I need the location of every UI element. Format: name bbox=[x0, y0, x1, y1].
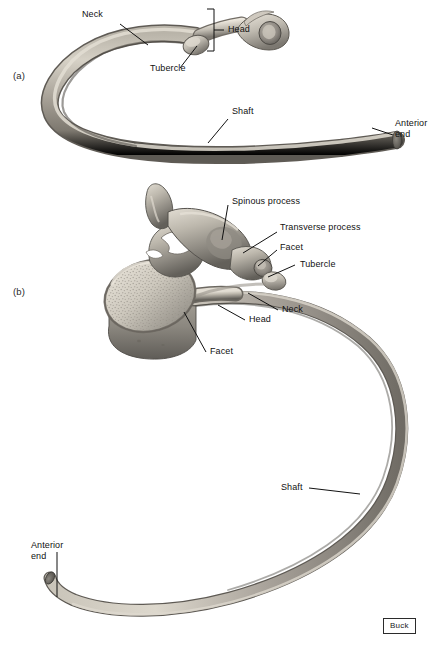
label-neck-a: Neck bbox=[82, 9, 103, 20]
label-head-a: Head bbox=[228, 24, 250, 35]
panel-label-a: (a) bbox=[13, 70, 25, 81]
label-head-b: Head bbox=[249, 314, 271, 325]
label-tubercle-b: Tubercle bbox=[300, 259, 335, 270]
label-spinous-process-b: Spinous process bbox=[232, 196, 300, 207]
leader-head-b bbox=[218, 305, 245, 320]
label-neck-b: Neck bbox=[282, 304, 303, 315]
label-anterior-end-b-line2: end bbox=[31, 551, 46, 561]
panel-label-b: (b) bbox=[13, 286, 25, 297]
label-shaft-a: Shaft bbox=[232, 106, 254, 117]
rib-anatomy-figure: (a) (b) Neck Head Tubercle Shaft Anterio… bbox=[0, 0, 437, 652]
label-anterior-end-b-line1: Anterior bbox=[31, 540, 63, 550]
label-facet-lower-b: Facet bbox=[210, 346, 233, 357]
label-anterior-end-a-line1: Anterior bbox=[395, 118, 427, 128]
panel-b-illustration bbox=[43, 184, 406, 614]
label-transverse-process-b: Transverse process bbox=[280, 222, 361, 233]
leader-shaft-a bbox=[208, 119, 228, 143]
panel-a-rib-illustration bbox=[50, 11, 402, 155]
label-facet-upper-b: Facet bbox=[280, 242, 303, 253]
label-tubercle-a: Tubercle bbox=[150, 63, 185, 74]
credit-box: Buck bbox=[383, 618, 416, 634]
label-anterior-end-a-line2: end bbox=[395, 129, 410, 139]
leader-shaft-b bbox=[309, 488, 360, 494]
label-shaft-b: Shaft bbox=[281, 482, 303, 493]
